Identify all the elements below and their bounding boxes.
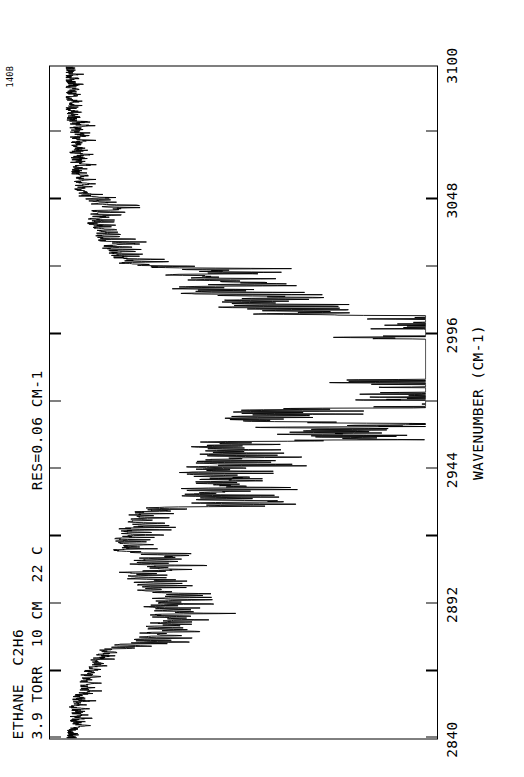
axis-tick-minor [50, 265, 61, 266]
axis-tick-minor [426, 265, 437, 266]
axis-tick-major [50, 332, 61, 333]
axis-tick-minor [50, 400, 61, 401]
x-tick-label: 3048 [444, 182, 460, 219]
plate-code-label: 140B [5, 65, 15, 87]
axis-tick-major [426, 197, 437, 198]
axis-tick-major [426, 736, 437, 737]
axis-tick-major [426, 467, 437, 468]
axis-tick-major [426, 65, 437, 66]
plot-area [49, 65, 438, 739]
x-axis-tick-labels: 284028922944299630483100 [444, 65, 468, 739]
figure-conditions: 3.9 TORR 10 CM 22 C RES=0.06 CM-1 [29, 370, 45, 739]
axis-tick-major [50, 467, 61, 468]
axis-tick-minor [426, 534, 437, 535]
axis-tick-major [426, 332, 437, 333]
axis-tick-minor [426, 130, 437, 131]
x-tick-label: 2840 [444, 721, 460, 758]
axis-tick-major [50, 65, 61, 66]
axis-tick-minor [50, 130, 61, 131]
axis-tick-major [50, 602, 61, 603]
axis-tick-minor [426, 400, 437, 401]
spectrum-trace [50, 66, 437, 738]
x-tick-label: 2996 [444, 316, 460, 353]
x-axis-title: WAVENUMBER (CM-1) [470, 65, 486, 739]
figure-title: ETHANE C2H6 [10, 628, 26, 739]
x-tick-label: 2944 [444, 451, 460, 488]
axis-tick-minor [50, 669, 61, 670]
spectrum-path [66, 66, 426, 738]
axis-tick-major [50, 197, 61, 198]
axis-tick-major [426, 602, 437, 603]
x-tick-label: 2892 [444, 586, 460, 623]
axis-tick-minor [426, 669, 437, 670]
x-tick-label: 3100 [444, 47, 460, 84]
axis-tick-minor [50, 534, 61, 535]
axis-tick-major [50, 736, 61, 737]
spectrum-figure: ETHANE C2H6 3.9 TORR 10 CM 22 C RES=0.06… [0, 0, 524, 777]
